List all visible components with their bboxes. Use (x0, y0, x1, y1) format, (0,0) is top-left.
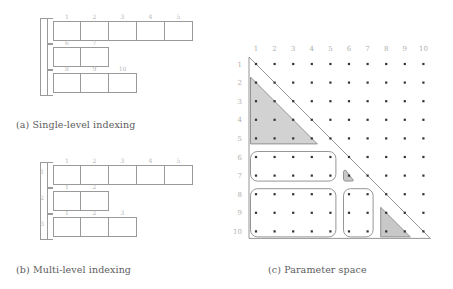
lattice-dot (404, 212, 406, 214)
cell-index-label: 4 (149, 157, 153, 165)
lattice-dot (274, 119, 276, 121)
cell-index-label: 1 (65, 209, 69, 217)
cell-index-label: 3 (121, 157, 125, 165)
array-cell: 1 (53, 21, 81, 41)
lattice-dot (292, 100, 294, 102)
array-cell: 6 (53, 47, 81, 67)
lattice-dot (422, 193, 424, 195)
array-cell: 2 (81, 165, 109, 185)
lattice-dot (255, 156, 257, 158)
parameter-space-plot: 1234567891012345678910 (228, 34, 443, 259)
lattice-dot (329, 230, 331, 232)
lattice-dot (422, 175, 424, 177)
lattice-dot (329, 63, 331, 65)
column-label: 1 (254, 45, 258, 53)
row-cells: 8910 (53, 73, 137, 93)
lattice-dot (422, 212, 424, 214)
lattice-dot (329, 137, 331, 139)
lattice-dot (311, 193, 313, 195)
lattice-dot (348, 156, 350, 158)
lattice-dot (255, 230, 257, 232)
lattice-dot (329, 212, 331, 214)
lattice-dot (348, 82, 350, 84)
array-cell: 2 (81, 191, 109, 211)
caption-panel-a: (a) Single-level indexing (16, 119, 135, 130)
array-cell: 5 (165, 21, 193, 41)
lattice-dot (385, 137, 387, 139)
lattice-dot (367, 175, 369, 177)
array-cell: 4 (137, 165, 165, 185)
lattice-dot (329, 119, 331, 121)
row-cells: 12 (53, 191, 109, 211)
column-label: 6 (347, 45, 352, 53)
row-index-label: 1 (34, 168, 44, 175)
lattice-dot (422, 230, 424, 232)
array-cell: 10 (109, 73, 137, 93)
array-cell: 9 (81, 73, 109, 93)
lattice-dot (385, 193, 387, 195)
array-cell: 3 (109, 217, 137, 237)
lattice-dot (348, 230, 350, 232)
lattice-dot (292, 230, 294, 232)
lattice-dot (292, 212, 294, 214)
row-cells: 123 (53, 217, 137, 237)
lattice-dot (311, 100, 313, 102)
lattice-dot (385, 100, 387, 102)
column-label: 3 (291, 45, 295, 53)
lattice-dot (274, 230, 276, 232)
lattice-dot (255, 82, 257, 84)
lattice-dot (422, 156, 424, 158)
lattice-dot (292, 119, 294, 121)
lattice-dot (404, 82, 406, 84)
lattice-dot (255, 63, 257, 65)
row-label: 2 (238, 79, 242, 87)
row-cells: 67 (53, 47, 109, 67)
lattice-dot (404, 230, 406, 232)
lattice-dot (348, 100, 350, 102)
cell-index-label: 4 (149, 13, 153, 21)
lattice-dot (329, 100, 331, 102)
lattice-dot (367, 119, 369, 121)
lattice-dot (329, 193, 331, 195)
lattice-dot (274, 212, 276, 214)
cell-index-label: 10 (119, 65, 127, 73)
lattice-dot (311, 82, 313, 84)
lattice-dot (385, 63, 387, 65)
lattice-dot (274, 193, 276, 195)
array-cell: 3 (109, 21, 137, 41)
lattice-dot (255, 175, 257, 177)
lattice-dot (422, 100, 424, 102)
lattice-dot (404, 156, 406, 158)
row-index-label: 3 (34, 220, 44, 227)
lattice-dot (385, 156, 387, 158)
lattice-dot (385, 119, 387, 121)
lattice-dot (255, 212, 257, 214)
column-label: 7 (365, 45, 369, 53)
lattice-dot (274, 100, 276, 102)
lattice-dot (255, 100, 257, 102)
cell-index-label: 8 (65, 65, 69, 73)
lattice-dot (404, 63, 406, 65)
row-cells: 12345 (53, 165, 193, 185)
lattice-dot (367, 82, 369, 84)
lattice-dot (422, 63, 424, 65)
cell-index-label: 5 (177, 13, 181, 21)
caption-panel-c: (c) Parameter space (268, 264, 367, 275)
lattice-dot (348, 212, 350, 214)
cell-index-label: 2 (93, 13, 97, 21)
lattice-dot (348, 63, 350, 65)
lattice-dot (292, 193, 294, 195)
cell-index-label: 2 (93, 183, 97, 191)
lattice-dot (274, 137, 276, 139)
lattice-dot (422, 82, 424, 84)
lattice-dot (385, 230, 387, 232)
lattice-dot (367, 100, 369, 102)
lattice-dot (292, 82, 294, 84)
lattice-dot (348, 175, 350, 177)
row-label: 10 (233, 228, 242, 236)
lattice-dot (292, 63, 294, 65)
lattice-dot (311, 230, 313, 232)
row-label: 8 (238, 191, 242, 199)
lattice-dot (311, 137, 313, 139)
lattice-dot (404, 175, 406, 177)
